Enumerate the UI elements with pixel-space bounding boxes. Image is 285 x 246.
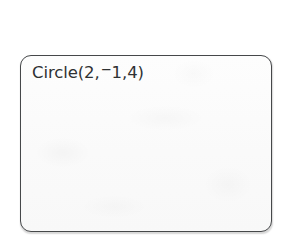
screen-command-line: Circle(2,−1,4) [32,63,144,83]
negative-sign-glyph: − [100,63,111,76]
graphing-calculator-screen: Circle(2,−1,4) [20,55,272,232]
command-args-after-negative: 1,4) [112,63,144,82]
command-args-before-negative: 2, [84,63,100,82]
command-name: Circle( [32,63,84,82]
